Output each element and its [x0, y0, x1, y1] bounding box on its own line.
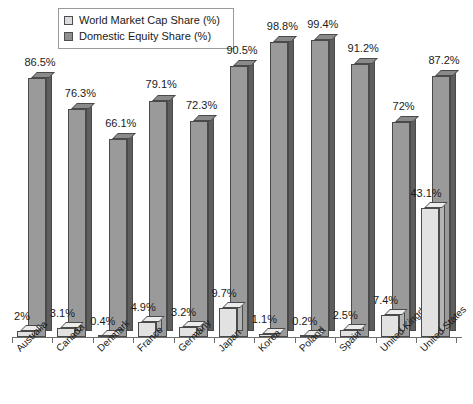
bar-side-face: [288, 36, 294, 331]
bar-value-label-world-cap: 2.5%: [333, 310, 358, 321]
x-axis-tick: [214, 338, 215, 343]
bar-front-face: [421, 208, 439, 337]
bar-side-face: [46, 72, 52, 331]
bar: [311, 40, 329, 337]
bar: [190, 121, 208, 337]
x-axis-category-label: Korea: [256, 327, 283, 354]
bar: [351, 64, 369, 337]
bar-value-label-domestic: 72.3%: [186, 100, 217, 111]
bar-front-face: [28, 78, 46, 337]
bar-value-label-world-cap: 4.9%: [131, 302, 156, 313]
bar-side-face: [86, 103, 92, 331]
bar: [421, 208, 439, 337]
bar-value-label-world-cap: 9.7%: [211, 288, 236, 299]
bar-value-label-domestic: 76.3%: [65, 88, 96, 99]
bar: [270, 42, 288, 337]
x-axis-tick: [335, 338, 336, 343]
bar: [28, 78, 46, 337]
bar-front-face: [109, 139, 127, 337]
bar-front-face: [270, 42, 288, 337]
bar-front-face: [311, 40, 329, 337]
x-axis-tick: [456, 338, 457, 343]
bar-value-label-domestic: 86.5%: [24, 57, 55, 68]
bar-value-label-world-cap: 0.4%: [90, 316, 115, 327]
bar-side-face: [410, 116, 416, 331]
bar-side-face: [450, 70, 456, 331]
bar-value-label-domestic: 87.2%: [428, 55, 459, 66]
bar-value-label-domestic: 99.4%: [307, 19, 338, 30]
bar-value-label-world-cap: 2%: [14, 311, 30, 322]
bar-side-face: [248, 60, 254, 331]
bar-value-label-domestic: 91.2%: [348, 43, 379, 54]
bar: [68, 109, 86, 337]
bar-value-label-world-cap: 1.1%: [252, 314, 277, 325]
bar: [109, 139, 127, 337]
bar-value-label-domestic: 72%: [393, 101, 415, 112]
x-axis-tick: [376, 338, 377, 343]
bar-value-label-domestic: 66.1%: [105, 118, 136, 129]
x-axis-tick: [295, 338, 296, 343]
bar-value-label-world-cap: 3.1%: [50, 308, 75, 319]
x-axis-tick: [174, 338, 175, 343]
bar-front-face: [68, 109, 86, 337]
bar-value-label-world-cap: 43.1%: [410, 188, 441, 199]
x-axis-tick: [416, 338, 417, 343]
chart-container: World Market Cap Share (%) Domestic Equi…: [0, 0, 473, 404]
bar-side-face: [329, 34, 335, 331]
x-axis-tick: [12, 338, 13, 343]
x-axis-tick: [254, 338, 255, 343]
x-axis-tick: [133, 338, 134, 343]
bar-value-label-domestic: 98.8%: [267, 21, 298, 32]
bar-front-face: [190, 121, 208, 337]
bar-value-label-domestic: 79.1%: [146, 79, 177, 90]
bar-side-face: [167, 95, 173, 332]
bar-side-face: [369, 58, 375, 331]
bar-front-face: [351, 64, 369, 337]
bar-value-label-world-cap: 0.2%: [292, 316, 317, 327]
bar-value-label-world-cap: 7.4%: [373, 295, 398, 306]
bar-value-label-world-cap: 3.2%: [171, 307, 196, 318]
bar-side-face: [439, 202, 445, 331]
x-axis-tick: [93, 338, 94, 343]
bar-value-label-domestic: 90.5%: [226, 45, 257, 56]
plot-area: 86.5%2%Australia76.3%3.1%Canada66.1%0.4%…: [0, 0, 473, 404]
x-axis-tick: [52, 338, 53, 343]
